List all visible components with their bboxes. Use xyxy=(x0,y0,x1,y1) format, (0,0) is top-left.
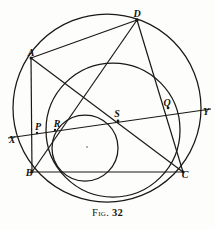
label-point-b: B xyxy=(26,168,33,178)
label-point-s: S xyxy=(114,109,120,119)
label-point-a: A xyxy=(28,48,35,58)
label-point-c: C xyxy=(182,170,189,180)
segment-dc xyxy=(137,20,183,172)
figure-caption: Fig. 32 xyxy=(0,207,215,218)
figure-container: A D Q Y S R P X B C Fig. 32 xyxy=(0,0,215,229)
inner-circle xyxy=(52,115,118,181)
caption-number: 32 xyxy=(112,207,123,218)
label-point-r: R xyxy=(54,119,61,129)
circumcircle xyxy=(13,14,201,202)
caption-prefix: Fig. xyxy=(92,207,109,218)
label-point-q: Q xyxy=(163,98,170,108)
label-point-y: Y xyxy=(203,107,209,117)
segment-ab xyxy=(31,58,32,172)
point-s xyxy=(117,120,120,123)
segment-bd xyxy=(32,20,137,172)
segment-ad xyxy=(31,20,137,58)
point-r xyxy=(54,129,56,131)
point-p xyxy=(36,132,38,134)
segment-ac xyxy=(31,58,183,172)
label-point-x: X xyxy=(9,135,16,145)
label-point-p: P xyxy=(35,122,41,132)
geometry-diagram xyxy=(0,0,215,229)
paper-speck xyxy=(86,146,88,148)
label-point-d: D xyxy=(133,9,140,19)
